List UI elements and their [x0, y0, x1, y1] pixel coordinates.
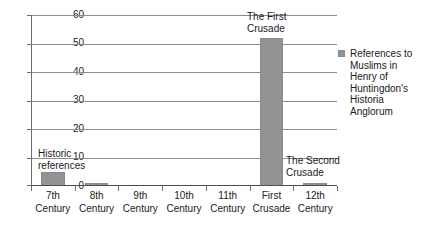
legend-line: References to: [350, 48, 423, 60]
bar-first-crusade[interactable]: [260, 38, 284, 186]
legend-label: References toMuslims inHenry ofHuntingdo…: [350, 48, 423, 118]
x-axis-label-8th-century: 8thCentury: [75, 190, 119, 215]
x-tick-mark: [337, 186, 338, 191]
x-axis-label-10th-century: 10thCentury: [162, 190, 206, 215]
bar-slot: [118, 15, 162, 186]
bar-slot: [162, 15, 206, 186]
bar-slot: [206, 15, 250, 186]
annotation-the-first-crusade: The First Crusade: [247, 11, 286, 34]
bar-chart: 60 50 40 30 20 10 0 7thCentury8thCentury…: [0, 0, 423, 229]
x-axis-label-first-crusade: FirstCrusade: [250, 190, 294, 215]
legend-line: Huntingdon's: [350, 83, 423, 95]
x-axis-label-9th-century: 9thCentury: [118, 190, 162, 215]
annotation-the-second-crusade: The Second Crusade: [286, 155, 340, 178]
legend-swatch-icon: [338, 50, 345, 57]
bar-7th-century[interactable]: [41, 172, 65, 186]
legend: References toMuslims inHenry ofHuntingdo…: [338, 48, 423, 118]
x-axis-label-12th-century: 12thCentury: [293, 190, 337, 215]
legend-line: Henry of: [350, 71, 423, 83]
annotation-historic-references: Historic references: [38, 148, 85, 171]
x-axis-label-11th-century: 11thCentury: [206, 190, 250, 215]
x-axis-labels: 7thCentury8thCentury9thCentury10thCentur…: [31, 190, 337, 215]
legend-line: Anglorum: [350, 106, 423, 118]
legend-line: Muslims in: [350, 60, 423, 72]
legend-line: Historia: [350, 94, 423, 106]
x-axis-label-7th-century: 7thCentury: [31, 190, 75, 215]
